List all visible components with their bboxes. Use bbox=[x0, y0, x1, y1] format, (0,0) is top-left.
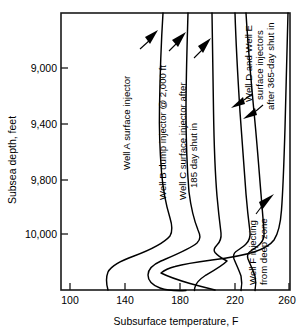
well-e-leader-line bbox=[256, 105, 263, 111]
well-f-annotation-label-line1: Well F injecting bbox=[247, 220, 258, 285]
y-tick-label-9800: 9,800 bbox=[31, 174, 57, 186]
well-b-arrow-icon bbox=[172, 32, 186, 47]
well-c-annotation-label-line2: 185 day shut in bbox=[188, 123, 199, 188]
y-tick-label-10000: 10,000 bbox=[25, 228, 57, 240]
x-tick-label-100: 100 bbox=[61, 294, 79, 306]
well-c-annotation-label-line1: Well C surface injector after bbox=[177, 82, 188, 200]
well-de-annotation-label-line1: Well D and Well E bbox=[243, 25, 254, 102]
x-tick-label-220: 220 bbox=[226, 294, 244, 306]
well-de-annotation-label-line2: surface injectors bbox=[254, 30, 265, 100]
x-tick-label-140: 140 bbox=[116, 294, 134, 306]
y-axis-ticks bbox=[61, 68, 68, 234]
well-a-annotation-label: Well A surface injector bbox=[121, 75, 132, 170]
y-axis-title: Subsea depth, feet bbox=[6, 116, 18, 204]
well-a-arrow-icon bbox=[145, 30, 158, 44]
well-c-arrow-icon bbox=[198, 38, 211, 53]
y-tick-label-9000: 9,000 bbox=[31, 62, 57, 74]
y-tick-label-9400: 9,400 bbox=[31, 118, 57, 130]
x-tick-label-180: 180 bbox=[171, 294, 189, 306]
x-tick-label-260: 260 bbox=[278, 294, 296, 306]
temperature-depth-chart: 9,000 9,400 9,800 10,000 100 140 180 220… bbox=[0, 0, 304, 335]
x-axis-title: Subsurface temperature, F bbox=[114, 315, 239, 327]
well-f-leader-line bbox=[256, 206, 262, 214]
well-b-annotation-label: Well B dump injector @ 2,000 ft bbox=[157, 65, 168, 200]
annotation-labels: Well A surface injector Well B dump inje… bbox=[121, 23, 276, 285]
y-axis-tick-labels: 9,000 9,400 9,800 10,000 bbox=[25, 62, 57, 240]
curve-well-c bbox=[195, 13, 228, 291]
chart-canvas: 9,000 9,400 9,800 10,000 100 140 180 220… bbox=[0, 0, 304, 335]
well-f-annotation-label-line2: from deep zone bbox=[258, 218, 269, 285]
well-de-annotation-label-line3: after 365-day shut in bbox=[265, 23, 276, 110]
x-axis-tick-labels: 100 140 180 220 260 bbox=[61, 294, 296, 306]
